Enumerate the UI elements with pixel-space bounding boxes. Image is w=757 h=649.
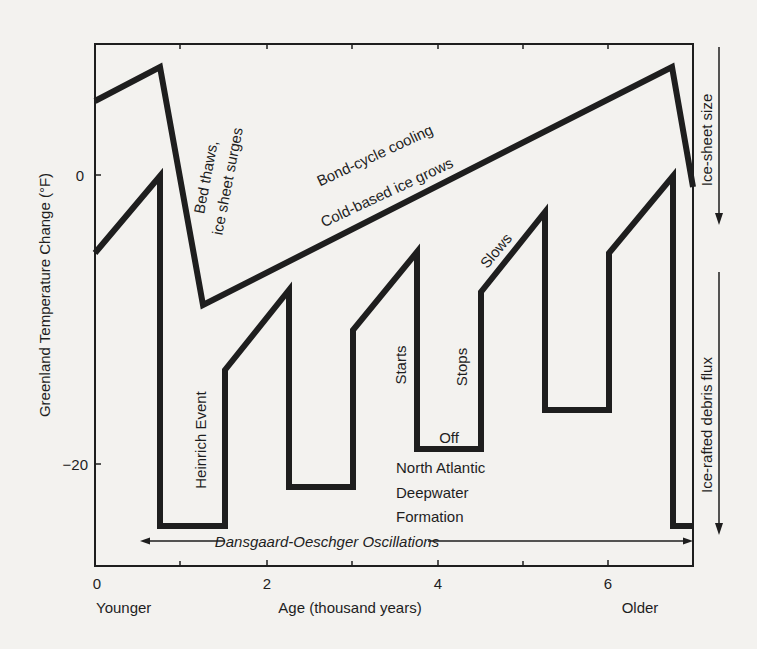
nadw-line-2: Deepwater <box>396 484 469 501</box>
ice-rafted-arrow <box>715 272 723 535</box>
diagram: 0 −20 Greenland Temperature Change (°F) … <box>0 0 757 649</box>
slows-label: Slows <box>476 230 515 272</box>
y-tick-0: 0 <box>76 167 84 184</box>
plot-frame <box>95 44 693 566</box>
y-axis-title: Greenland Temperature Change (°F) <box>36 173 53 417</box>
x-label-older: Older <box>622 599 659 616</box>
x-tick-6: 6 <box>604 575 612 592</box>
stops-label: Stops <box>453 348 470 386</box>
x-tick-0: 0 <box>93 575 101 592</box>
arrow-right-icon <box>683 538 693 545</box>
y-tick-neg20: −20 <box>63 456 88 473</box>
do-oscillations-label: Dansgaard-Oeschger Oscillations <box>215 533 440 550</box>
bed-thaws-annotation: Bed thaws, ice sheet surges <box>187 122 246 237</box>
x-tick-2: 2 <box>263 575 271 592</box>
x-tick-4: 4 <box>434 575 442 592</box>
arrow-down-icon <box>715 213 723 225</box>
ice-rafted-label: Ice-rafted debris flux <box>698 357 715 493</box>
x-axis-title: Age (thousand years) <box>278 599 421 616</box>
x-label-younger: Younger <box>96 599 151 616</box>
ice-sheet-size-label: Ice-sheet size <box>698 94 715 187</box>
arrow-left-icon <box>140 538 150 545</box>
nadw-line-3: Formation <box>396 508 464 525</box>
ice-sheet-size-arrow <box>715 47 723 225</box>
nadw-line-1: North Atlantic <box>396 459 486 476</box>
arrow-down-icon <box>715 523 723 535</box>
off-label: Off <box>439 429 460 446</box>
heinrich-event-label: Heinrich Event <box>192 390 209 488</box>
starts-label: Starts <box>392 345 409 384</box>
